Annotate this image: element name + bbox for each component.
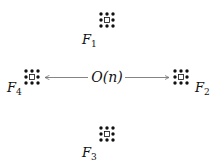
node-label: F3 — [81, 145, 97, 160]
dot-icon — [179, 81, 182, 84]
dot-icon — [105, 12, 108, 15]
dot-icon — [36, 69, 39, 72]
dot-icon — [111, 24, 114, 27]
node-f2: F2 — [173, 69, 209, 97]
dot-icon — [99, 12, 102, 15]
node-subscript: 2 — [204, 87, 210, 97]
dot-icon — [99, 24, 102, 27]
dot-icon — [24, 75, 27, 78]
dot-icon — [185, 75, 188, 78]
dot-icon — [111, 132, 114, 135]
dot-icon — [179, 69, 182, 72]
dot-icon — [36, 75, 39, 78]
dot-icon — [99, 138, 102, 141]
node-f3: F3 — [81, 126, 115, 160]
dot-icon — [185, 81, 188, 84]
node-label: F1 — [81, 32, 97, 49]
dot-icon — [111, 138, 114, 141]
dot-icon — [30, 69, 33, 72]
node-label: F2 — [194, 80, 210, 97]
dot-icon — [185, 69, 188, 72]
node-label: F4 — [6, 80, 22, 97]
center-square-icon — [105, 132, 110, 137]
complexity-label: O(n) — [91, 69, 122, 85]
node-f1: F1 — [81, 12, 115, 49]
node-subscript: 4 — [16, 87, 22, 97]
dot-icon — [173, 81, 176, 84]
node-subscript: 1 — [91, 39, 97, 49]
dot-icon — [24, 81, 27, 84]
dot-icon — [36, 81, 39, 84]
dot-icon — [111, 18, 114, 21]
dot-icon — [24, 69, 27, 72]
node-f4: F4 — [6, 69, 40, 97]
dot-icon — [111, 126, 114, 129]
center-square-icon — [179, 75, 184, 80]
center-square-icon — [30, 75, 35, 80]
dot-icon — [99, 126, 102, 129]
dot-icon — [99, 132, 102, 135]
dot-icon — [105, 138, 108, 141]
diagram-canvas: F1F2F3F4 O(n) — [0, 0, 217, 160]
node-layer: F1F2F3F4 — [6, 12, 210, 160]
dot-icon — [105, 126, 108, 129]
dot-icon — [105, 24, 108, 27]
dot-icon — [111, 12, 114, 15]
center-square-icon — [105, 18, 110, 23]
dot-icon — [30, 81, 33, 84]
dot-icon — [99, 18, 102, 21]
node-subscript: 3 — [91, 152, 97, 160]
dot-icon — [173, 69, 176, 72]
dot-icon — [173, 75, 176, 78]
